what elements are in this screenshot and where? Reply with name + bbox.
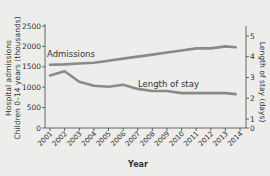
- x-tick-label: 2010: [168, 130, 186, 148]
- admissions-label: Admissions: [47, 49, 96, 59]
- left-tick-label: 1000: [22, 83, 41, 92]
- x-tick-label: 2009: [153, 130, 171, 148]
- x-tick-label: 2005: [95, 130, 113, 148]
- x-axis: 2001200220032004200520062007200820092010…: [36, 128, 246, 148]
- left-tick-label: 1500: [22, 62, 41, 71]
- dual-axis-line-chart: 05001000150020002500 012345 200120022003…: [0, 0, 270, 176]
- x-tick-label: 2014: [226, 129, 245, 148]
- chart-canvas: 05001000150020002500 012345 200120022003…: [0, 0, 270, 176]
- x-tick-label: 2004: [80, 129, 99, 148]
- left-tick-label: 500: [27, 103, 42, 112]
- right-tick-label: 0: [250, 124, 255, 133]
- left-tick-label: 2500: [22, 22, 41, 31]
- left-y-axis: 05001000150020002500: [22, 22, 45, 133]
- right-tick-label: 4: [250, 52, 255, 61]
- right-tick-label: 3: [250, 73, 255, 82]
- y-axis-title-line1: Hospital admissions: [4, 40, 13, 116]
- x-tick-label: 2006: [109, 129, 128, 148]
- x-tick-label: 2008: [138, 130, 156, 148]
- y2-axis-title: Length of stay (days): [258, 42, 267, 123]
- x-tick-label: 2011: [182, 130, 200, 148]
- x-tick-label: 2003: [65, 130, 83, 148]
- right-tick-label: 5: [250, 32, 255, 41]
- left-tick-label: 2000: [22, 42, 41, 51]
- x-tick-label: 2013: [212, 130, 230, 148]
- length-of-stay-label: Length of stay: [138, 79, 199, 89]
- right-tick-label: 2: [250, 94, 255, 103]
- x-axis-title: Year: [127, 160, 148, 169]
- right-tick-label: 1: [250, 115, 255, 124]
- left-tick-label: 0: [36, 124, 41, 133]
- x-tick-label: 2012: [197, 130, 215, 148]
- y-axis-title-line2: Children 0–14 years (thousands): [13, 16, 22, 139]
- right-y-axis: 012345: [246, 26, 255, 133]
- x-tick-label: 2007: [124, 130, 142, 148]
- x-tick-label: 2002: [51, 130, 69, 148]
